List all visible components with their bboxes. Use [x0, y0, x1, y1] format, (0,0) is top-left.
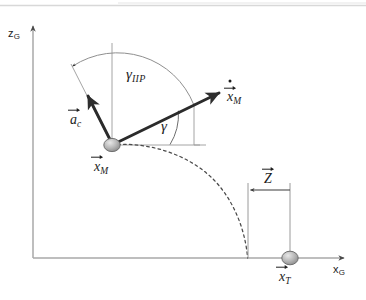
- acceleration-glyph-stack: a: [70, 113, 77, 127]
- axis-label-z: zG: [8, 28, 20, 41]
- axis-label-z-sub: G: [14, 32, 20, 41]
- vector-label-zero-effort-miss: Z: [264, 172, 272, 186]
- axis-label-x: xG: [333, 264, 345, 277]
- missile-glyph-stack: x: [94, 160, 100, 174]
- axis-label-x-sub: G: [339, 268, 345, 277]
- missile-subscript: M: [100, 166, 108, 176]
- vector-label-commanded-acceleration: a c: [70, 113, 81, 130]
- scan-artifact: [0, 3, 366, 6]
- target-glyph-stack: x: [279, 270, 285, 284]
- diagram-canvas: [0, 0, 366, 300]
- figure-root: zG xG γIIP γ x M: [0, 0, 366, 300]
- missile-marker: [104, 138, 120, 151]
- target-base-letter: x: [279, 270, 285, 284]
- body-label-missile: x M: [94, 160, 108, 177]
- angle-label-gamma-iip: γIIP: [126, 66, 146, 84]
- acceleration-subscript: c: [77, 119, 81, 129]
- acceleration-vector: [88, 96, 113, 145]
- missile-base-letter: x: [94, 160, 100, 174]
- angle-label-gamma: γ: [161, 118, 167, 134]
- gamma-symbol: γ: [161, 118, 167, 134]
- target-marker: [282, 251, 298, 265]
- acceleration-base-letter: a: [70, 113, 77, 127]
- velocity-glyph-stack: x: [227, 90, 233, 104]
- target-subscript: T: [285, 276, 290, 286]
- predicted-trajectory-curve: [112, 144, 248, 258]
- body-label-target: x T: [279, 270, 291, 287]
- vector-label-missile-velocity: x M: [227, 90, 241, 107]
- velocity-base-letter: x: [227, 90, 233, 104]
- gamma-iip-subscript: IIP: [132, 73, 146, 84]
- zem-base-letter: Z: [264, 172, 272, 186]
- zem-glyph-stack: Z: [264, 172, 272, 186]
- velocity-subscript: M: [233, 96, 241, 106]
